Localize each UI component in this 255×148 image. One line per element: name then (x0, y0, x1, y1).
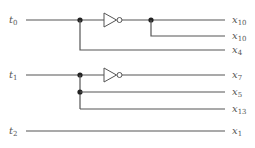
output-label-x1: x1 (232, 125, 242, 138)
output-label-x13: x13 (232, 103, 247, 116)
wire-not-t0-to-x10-second (151, 20, 225, 36)
wire-t0-to-x4 (80, 20, 225, 50)
input-label-t2: t2 (9, 125, 18, 138)
input-label-t1: t1 (9, 69, 18, 82)
output-label-x10-a: x10 (232, 14, 247, 27)
inverter-bubble (117, 73, 122, 78)
inverter-triangle (104, 13, 117, 27)
inverter-t0 (104, 13, 122, 27)
input-label-t0: t0 (9, 14, 18, 27)
output-label-x7: x7 (232, 69, 242, 82)
inverter-t1 (104, 68, 122, 82)
circuit-diagram: t0 x10 x10 x4 t1 x7 x5 x13 t2 x1 (0, 0, 255, 148)
inverter-bubble (117, 18, 122, 23)
inverter-triangle (104, 68, 117, 82)
output-label-x4: x4 (232, 44, 243, 57)
output-label-x5: x5 (232, 86, 242, 99)
output-label-x10-b: x10 (232, 30, 247, 43)
